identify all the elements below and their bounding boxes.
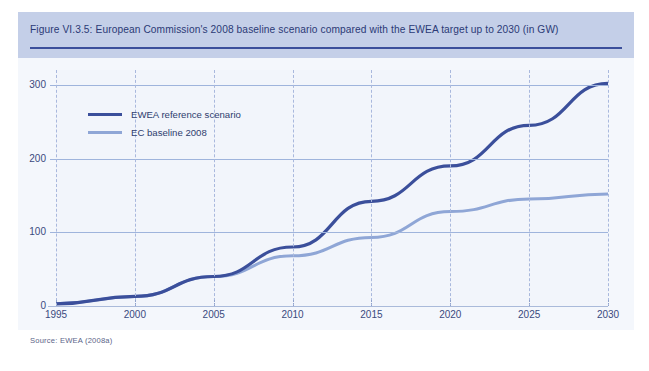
x-tick-2015: [371, 300, 373, 306]
x-tick-2030: [608, 300, 610, 306]
gridline-y-100: [56, 232, 608, 233]
legend-swatch-ewea: [88, 113, 122, 116]
gridline-y-300: [56, 85, 608, 86]
gridline-x-2015: [371, 70, 373, 306]
figure-container: Figure VI.3.5: European Commission's 200…: [0, 0, 649, 371]
source-note: Source: EWEA (2008a): [30, 336, 113, 345]
x-axis-label-2015: 2015: [341, 309, 401, 320]
x-axis-label-2030: 2030: [578, 309, 638, 320]
x-axis-label-2020: 2020: [420, 309, 480, 320]
gridline-x-2025: [529, 70, 531, 306]
legend-item-ec: EC baseline 2008: [88, 123, 241, 141]
y-tick-300: [50, 85, 56, 86]
y-axis-label-300: 300: [0, 79, 46, 90]
series-line-ec-baseline: [56, 194, 608, 304]
x-axis-label-2000: 2000: [105, 309, 165, 320]
y-axis-label-100: 100: [0, 226, 46, 237]
x-tick-1995: [56, 300, 58, 306]
y-tick-200: [50, 159, 56, 160]
x-tick-2020: [450, 300, 452, 306]
gridline-x-1995: [56, 70, 58, 306]
x-axis-label-2010: 2010: [263, 309, 323, 320]
chart-legend: EWEA reference scenario EC baseline 2008: [88, 105, 241, 141]
gridline-x-2010: [293, 70, 295, 306]
x-axis-label-2025: 2025: [499, 309, 559, 320]
legend-label-ec: EC baseline 2008: [131, 127, 207, 138]
legend-swatch-ec: [88, 131, 122, 134]
gridline-x-2020: [450, 70, 452, 306]
x-axis-line: [48, 306, 608, 307]
gridline-x-2030: [608, 70, 610, 306]
figure-title-band: Figure VI.3.5: European Commission's 200…: [18, 12, 634, 58]
x-tick-2000: [135, 300, 137, 306]
legend-label-ewea: EWEA reference scenario: [131, 109, 241, 120]
x-axis-label-2005: 2005: [184, 309, 244, 320]
x-axis-label-1995: 1995: [26, 309, 86, 320]
x-tick-2010: [293, 300, 295, 306]
x-tick-2025: [529, 300, 531, 306]
title-underline-rule: [30, 47, 622, 49]
x-tick-2005: [214, 300, 216, 306]
y-tick-100: [50, 232, 56, 233]
figure-title: Figure VI.3.5: European Commission's 200…: [30, 24, 559, 35]
gridline-y-200: [56, 159, 608, 160]
y-axis-label-200: 200: [0, 153, 46, 164]
legend-item-ewea: EWEA reference scenario: [88, 105, 241, 123]
